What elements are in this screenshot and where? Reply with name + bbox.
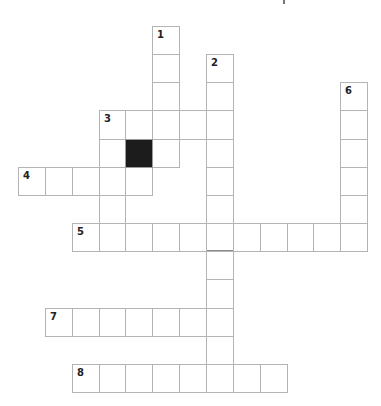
- crossword-cell[interactable]: [125, 167, 153, 196]
- crossword-cell[interactable]: [260, 223, 288, 252]
- crossword-cell[interactable]: [179, 223, 207, 252]
- crossword-cell[interactable]: [206, 82, 234, 111]
- clue-number-3: 3: [104, 113, 111, 125]
- crossword-cell[interactable]: [99, 139, 126, 168]
- crossword-cell[interactable]: [340, 110, 368, 140]
- crossword-cell[interactable]: [45, 167, 73, 196]
- top-edge-mark: [283, 0, 285, 4]
- crossword-cell[interactable]: [99, 195, 126, 224]
- clue-number-7: 7: [50, 311, 57, 323]
- crossword-cell[interactable]: 7: [45, 308, 73, 337]
- clue-number-8: 8: [77, 367, 84, 379]
- clue-number-5: 5: [77, 226, 84, 238]
- crossword-cell[interactable]: [206, 251, 234, 280]
- crossword-cell[interactable]: [260, 364, 288, 393]
- crossword-cell[interactable]: [152, 308, 180, 337]
- crossword-cell[interactable]: [179, 110, 207, 140]
- crossword-cell[interactable]: [233, 223, 261, 252]
- crossword-cell[interactable]: [99, 308, 126, 337]
- crossword-cell[interactable]: [152, 223, 180, 252]
- black-square: [125, 139, 153, 168]
- crossword-cell[interactable]: [233, 364, 261, 393]
- crossword-cell[interactable]: 1: [152, 26, 180, 55]
- crossword-cell[interactable]: [125, 223, 153, 252]
- crossword-cell[interactable]: [287, 223, 314, 252]
- crossword-cell[interactable]: [125, 110, 153, 140]
- crossword-cell[interactable]: [206, 223, 234, 252]
- crossword-cell[interactable]: [99, 364, 126, 393]
- crossword-cell[interactable]: 8: [72, 364, 100, 393]
- crossword-cell[interactable]: [206, 364, 234, 393]
- crossword-grid: 12345678: [0, 0, 381, 406]
- crossword-cell[interactable]: [206, 336, 234, 365]
- clue-number-1: 1: [157, 29, 164, 41]
- crossword-cell[interactable]: [152, 364, 180, 393]
- crossword-cell[interactable]: [206, 279, 234, 309]
- crossword-cell[interactable]: [340, 223, 368, 252]
- crossword-cell[interactable]: [206, 110, 234, 140]
- crossword-cell[interactable]: [152, 82, 180, 111]
- crossword-cell[interactable]: [125, 364, 153, 393]
- clue-number-6: 6: [345, 85, 352, 97]
- crossword-cell[interactable]: 3: [99, 110, 126, 140]
- crossword-cell[interactable]: [179, 308, 207, 337]
- crossword-cell[interactable]: 2: [206, 54, 234, 83]
- clue-number-2: 2: [211, 57, 218, 69]
- crossword-cell[interactable]: [206, 195, 234, 224]
- clue-number-4: 4: [23, 170, 30, 182]
- crossword-cell[interactable]: 6: [340, 82, 368, 111]
- crossword-cell[interactable]: 5: [72, 223, 100, 252]
- crossword-cell[interactable]: [179, 364, 207, 393]
- crossword-cell[interactable]: [99, 167, 126, 196]
- crossword-cell[interactable]: 4: [18, 167, 46, 196]
- crossword-cell[interactable]: [206, 139, 234, 168]
- crossword-cell[interactable]: [152, 54, 180, 83]
- crossword-cell[interactable]: [152, 110, 180, 140]
- crossword-cell[interactable]: [340, 139, 368, 168]
- crossword-cell[interactable]: [99, 223, 126, 252]
- crossword-cell[interactable]: [206, 308, 234, 337]
- crossword-cell[interactable]: [125, 308, 153, 337]
- crossword-cell[interactable]: [340, 195, 368, 224]
- crossword-cell[interactable]: [72, 308, 100, 337]
- crossword-cell[interactable]: [340, 167, 368, 196]
- crossword-cell[interactable]: [152, 139, 180, 168]
- crossword-cell[interactable]: [313, 223, 341, 252]
- crossword-cell[interactable]: [72, 167, 100, 196]
- crossword-cell[interactable]: [206, 167, 234, 196]
